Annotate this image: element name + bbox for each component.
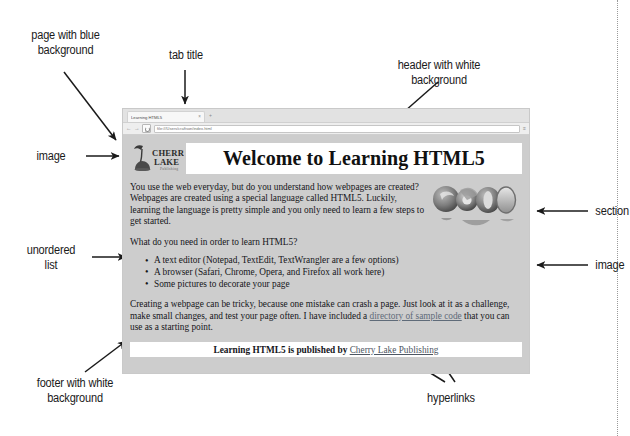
- page-footer: Learning HTML5 is published by Cherry La…: [130, 342, 522, 357]
- svg-text:Publishing: Publishing: [160, 167, 178, 171]
- page-section: You use the web everyday, but do you und…: [130, 182, 522, 333]
- page-header: CHERRY LAKE Publishing Welcome to Learni…: [130, 139, 522, 177]
- annotation-page-blue-background: page with blue background: [15, 28, 116, 57]
- closing-paragraph: Creating a webpage can be tricky, becaus…: [130, 299, 520, 333]
- annotation-unordered-list: unordered list: [18, 243, 83, 272]
- annotation-image-left: image: [24, 149, 79, 164]
- page-header-banner: Welcome to Learning HTML5: [186, 143, 522, 174]
- annotation-image-right: image: [595, 258, 630, 273]
- cherry-lake-publishing-link[interactable]: Cherry Lake Publishing: [350, 345, 439, 355]
- cherry-lake-logo-image: CHERRY LAKE Publishing: [130, 139, 184, 177]
- reload-icon[interactable]: [142, 124, 151, 133]
- back-arrow-icon[interactable]: ←: [126, 126, 132, 132]
- address-bar-url: file:///Users/craftson/index.html: [157, 126, 212, 131]
- new-tab-icon[interactable]: +: [209, 113, 212, 118]
- requirements-list: A text editor (Notepad, TextEdit, TextWr…: [130, 255, 520, 290]
- list-item: Some pictures to decorate your page: [154, 279, 520, 290]
- annotation-section: section: [595, 204, 630, 219]
- browser-tab[interactable]: Learning HTML5 ×: [127, 111, 205, 122]
- close-icon[interactable]: ×: [198, 115, 201, 120]
- footer-text: Learning HTML5 is published by Cherry La…: [214, 345, 439, 355]
- footer-text-before: Learning HTML5 is published by: [214, 345, 350, 355]
- browser-logos-image: [432, 180, 520, 236]
- list-item: A text editor (Notepad, TextEdit, TextWr…: [154, 255, 520, 266]
- menu-icon[interactable]: ≡: [523, 126, 526, 131]
- question-paragraph: What do you need in order to learn HTML5…: [130, 237, 520, 248]
- page-title: Welcome to Learning HTML5: [223, 147, 485, 170]
- svg-text:LAKE: LAKE: [154, 157, 179, 167]
- browser-window: Learning HTML5 × + ← → file:///Users/cra…: [123, 109, 529, 373]
- browser-tab-title: Learning HTML5: [131, 115, 198, 120]
- forward-arrow-icon[interactable]: →: [134, 126, 140, 132]
- browser-toolbar: ← → file:///Users/craftson/index.html ≡: [123, 123, 529, 135]
- page-viewport: CHERRY LAKE Publishing Welcome to Learni…: [123, 135, 529, 373]
- list-item: A browser (Safari, Chrome, Opera, and Fi…: [154, 267, 520, 278]
- address-bar[interactable]: file:///Users/craftson/index.html: [154, 125, 520, 133]
- annotation-hyperlinks: hyperlinks: [403, 391, 500, 406]
- annotation-footer-white-background: footer with white background: [16, 376, 134, 405]
- sample-code-link[interactable]: directory of sample code: [370, 311, 462, 321]
- browser-tab-bar: Learning HTML5 × +: [123, 109, 529, 123]
- annotation-tab-title: tab title: [147, 48, 224, 63]
- annotation-header-white-background: header with white background: [382, 58, 496, 87]
